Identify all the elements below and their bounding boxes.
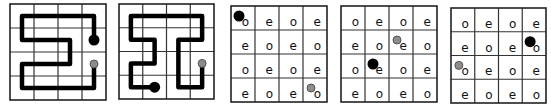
even-label: e	[266, 15, 273, 29]
odd-label: o	[290, 63, 297, 77]
odd-label: o	[352, 63, 359, 77]
odd-label: o	[424, 39, 431, 53]
odd-label: o	[533, 88, 540, 102]
even-label: e	[376, 15, 383, 29]
odd-label: o	[509, 64, 516, 78]
odd-label: o	[314, 39, 321, 53]
grid-parity-b: oeoeeoeooeoeeoeo	[341, 6, 437, 102]
odd-label: o	[509, 17, 516, 31]
even-label: e	[290, 39, 297, 53]
even-label: e	[352, 39, 359, 53]
even-label: e	[509, 88, 516, 102]
start-dot-icon	[368, 59, 379, 70]
parity-grid-panel: oeoeeoeooeoeeoeo	[341, 6, 437, 102]
odd-label: o	[242, 63, 249, 77]
end-dot-icon	[393, 36, 401, 44]
even-label: e	[509, 41, 516, 55]
even-label: e	[314, 63, 321, 77]
odd-label: o	[376, 87, 383, 101]
even-label: e	[242, 39, 249, 53]
odd-label: o	[485, 41, 492, 55]
even-label: e	[400, 87, 407, 101]
parity-grid-panel: oeoeeoeooeoeeoeo	[231, 6, 327, 102]
even-label: e	[266, 63, 273, 77]
even-label: e	[290, 87, 297, 101]
end-dot-icon	[307, 84, 315, 92]
odd-label: o	[290, 15, 297, 29]
even-label: e	[461, 41, 468, 55]
start-dot-icon	[525, 36, 536, 47]
odd-label: o	[424, 87, 431, 101]
even-label: e	[461, 88, 468, 102]
even-label: e	[485, 17, 492, 31]
odd-label: o	[400, 63, 407, 77]
end-dot-icon	[198, 59, 206, 67]
parity-grid-panel: oeoeeoeooeoeeoeo	[451, 8, 546, 103]
grid-parity-a: oeoeeoeooeoeeoeo	[231, 6, 327, 102]
odd-label: o	[376, 39, 383, 53]
odd-label: o	[400, 15, 407, 29]
path-grid-panel	[119, 4, 214, 99]
end-dot-icon	[90, 60, 98, 68]
even-label: e	[424, 15, 431, 29]
even-label: e	[485, 64, 492, 78]
even-label: e	[314, 15, 321, 29]
start-dot-icon	[234, 11, 245, 22]
odd-label: o	[352, 15, 359, 29]
even-label: e	[352, 87, 359, 101]
grid-parity-c: oeoeeoeooeoeeoeo	[451, 8, 546, 103]
even-label: e	[533, 17, 540, 31]
path-grid-panel	[10, 4, 106, 100]
odd-label: o	[266, 39, 273, 53]
grid-path-a	[10, 4, 106, 100]
start-dot-icon	[149, 82, 160, 93]
odd-label: o	[485, 88, 492, 102]
even-label: e	[242, 87, 249, 101]
odd-label: o	[266, 87, 273, 101]
start-dot-icon	[89, 35, 100, 46]
odd-label: o	[461, 17, 468, 31]
end-dot-icon	[455, 61, 463, 69]
grid-path-b	[119, 4, 214, 99]
even-label: e	[424, 63, 431, 77]
even-label: e	[533, 64, 540, 78]
